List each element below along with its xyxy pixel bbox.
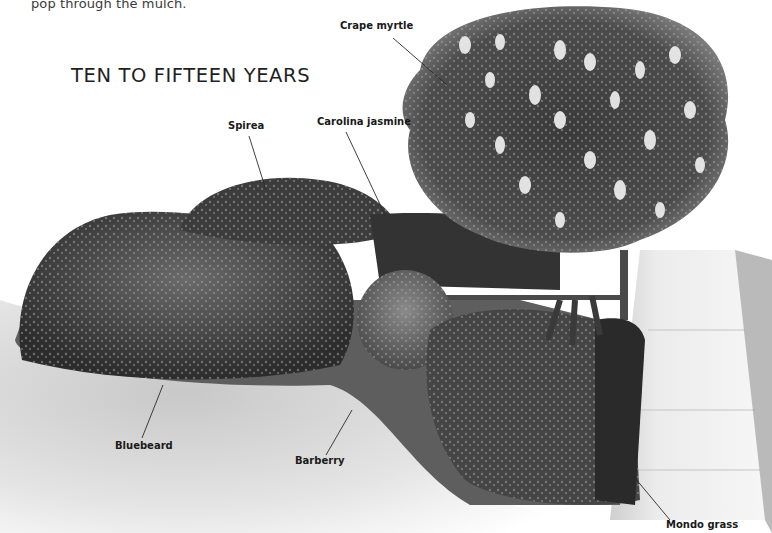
garden-illustration — [0, 0, 772, 533]
label-spirea: Spirea — [228, 120, 264, 131]
label-carolina-jasmine: Carolina jasmine — [317, 116, 411, 127]
label-crape-myrtle: Crape myrtle — [340, 20, 413, 31]
label-bluebeard: Bluebeard — [115, 440, 173, 451]
label-mondo-grass: Mondo grass — [666, 519, 738, 530]
label-barberry: Barberry — [295, 455, 345, 466]
